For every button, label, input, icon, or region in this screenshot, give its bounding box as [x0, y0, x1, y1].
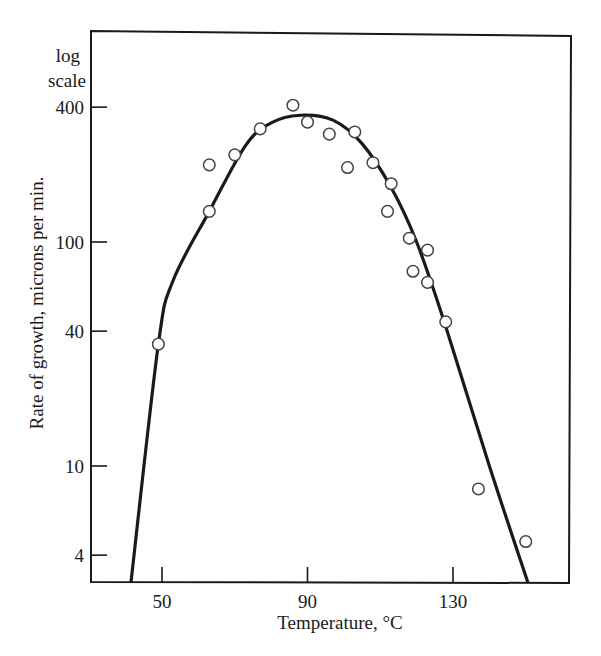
y-tick-label: 400 — [56, 97, 85, 118]
data-point-circle — [302, 116, 314, 128]
data-point-circle — [203, 206, 215, 218]
data-points — [153, 99, 532, 547]
growth-rate-chart: 41040100400 5090130 log scale Rate of gr… — [0, 0, 601, 656]
y-scale-note-line1: log — [56, 45, 81, 66]
y-tick-label: 40 — [65, 321, 84, 342]
data-point-circle — [440, 316, 452, 328]
data-point-circle — [153, 338, 165, 350]
data-point-circle — [407, 265, 419, 277]
y-tick-label: 4 — [75, 545, 85, 566]
y-tick-label: 10 — [65, 456, 84, 477]
data-point-circle — [473, 483, 485, 495]
fitted-curve-line — [131, 115, 527, 581]
data-point-circle — [385, 178, 397, 190]
x-tick-label: 50 — [153, 591, 172, 612]
data-point-circle — [422, 277, 434, 289]
x-axis-title: Temperature, °C — [277, 612, 403, 633]
y-axis-ticks: 41040100400 — [56, 97, 108, 566]
data-point-circle — [367, 157, 379, 169]
y-axis-title: Rate of growth, microns per min. — [26, 177, 47, 430]
y-tick-label: 100 — [56, 232, 85, 253]
data-point-circle — [349, 126, 361, 138]
x-tick-label: 90 — [298, 591, 317, 612]
data-point-circle — [254, 123, 266, 135]
data-point-circle — [342, 162, 354, 174]
data-point-circle — [203, 159, 215, 171]
data-point-circle — [422, 244, 434, 256]
data-point-circle — [382, 206, 394, 218]
data-point-circle — [229, 149, 241, 161]
x-tick-label: 130 — [439, 591, 468, 612]
data-point-circle — [520, 536, 532, 548]
data-point-circle — [287, 99, 299, 111]
data-point-circle — [324, 128, 336, 140]
y-scale-note-line2: scale — [48, 70, 86, 91]
x-axis-ticks: 5090130 — [153, 567, 468, 612]
data-point-circle — [404, 232, 416, 244]
